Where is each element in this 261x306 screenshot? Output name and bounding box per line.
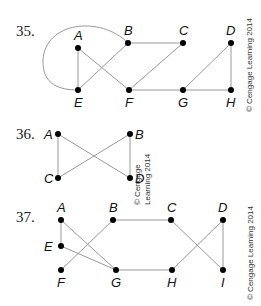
edge-E-G [61, 246, 116, 270]
vertex-A [75, 45, 81, 51]
vertex-label: E [44, 239, 53, 254]
vertex-label: G [178, 95, 188, 110]
edge-C-F [129, 43, 183, 90]
vertex-label: C [167, 200, 177, 215]
vertex-label: F [57, 275, 66, 290]
vertex-label: B [135, 127, 144, 142]
vertex-C [168, 217, 174, 223]
vertex-label: E [74, 95, 83, 110]
vertex-label: B [124, 23, 133, 38]
vertex-label: D [218, 200, 227, 215]
vertex-H [228, 87, 234, 93]
vertex-F [126, 87, 132, 93]
vertex-label: C [44, 171, 54, 186]
exercise-number: 35. [16, 23, 35, 39]
exercise-number: 36. [16, 126, 35, 142]
vertex-label: C [179, 23, 189, 38]
vertex-E [75, 87, 81, 93]
exercise-number: 37. [16, 209, 35, 225]
copyright: © Cengage Learning 2014 [246, 205, 255, 300]
copyright: © Cengage [133, 164, 142, 205]
vertex-label: B [109, 200, 118, 215]
vertex-label: I [221, 275, 225, 290]
vertex-C [55, 175, 61, 181]
vertex-E [58, 243, 64, 249]
vertex-label: A [56, 200, 66, 215]
vertex-C [180, 40, 186, 46]
vertex-B [127, 131, 133, 137]
vertex-label: D [226, 23, 235, 38]
vertex-label: G [111, 275, 121, 290]
vertex-G [113, 267, 119, 273]
vertex-label: A [43, 127, 53, 142]
vertex-D [228, 40, 234, 46]
vertex-B [110, 217, 116, 223]
vertex-D [220, 217, 226, 223]
vertex-I [220, 267, 226, 273]
vertex-A [55, 131, 61, 137]
copyright: Learning 2014 [143, 153, 152, 205]
edge-G-D [183, 43, 231, 90]
vertex-G [180, 87, 186, 93]
vertex-F [58, 267, 64, 273]
vertex-label: F [125, 95, 134, 110]
edge-A-F [78, 48, 129, 90]
vertex-H [169, 267, 175, 273]
vertex-A [58, 217, 64, 223]
copyright: © Cengage Learning 2014 [245, 17, 254, 112]
vertex-label: A [73, 28, 83, 43]
graph-exercises: 35.ABCDEFGH© Cengage Learning 201436.ABC… [0, 0, 261, 306]
graph-canvas: 35.ABCDEFGH© Cengage Learning 201436.ABC… [0, 0, 261, 306]
loop-edge [43, 26, 128, 90]
vertex-label: H [167, 275, 177, 290]
vertex-label: H [226, 95, 236, 110]
vertex-B [125, 40, 131, 46]
